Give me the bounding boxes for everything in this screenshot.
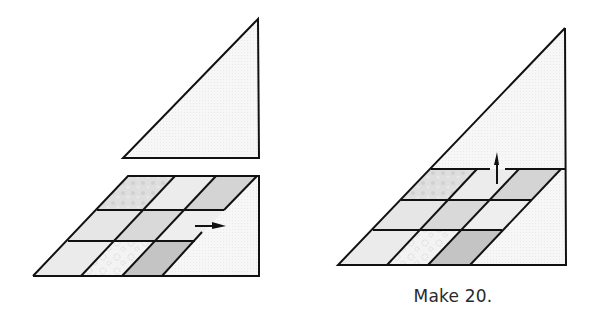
left-setting-triangle: [123, 19, 259, 158]
right-assembled-triangle: [338, 28, 566, 265]
left-patch-unit: [33, 176, 259, 276]
quilt-diagram: [0, 0, 591, 327]
caption-make-count: Make 20.: [388, 286, 518, 306]
